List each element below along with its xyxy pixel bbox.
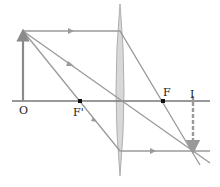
label-image: I (190, 88, 194, 101)
ray-parallel (23, 31, 200, 165)
label-origin: O (19, 104, 28, 117)
label-object-focal: F' (73, 106, 84, 119)
lens-ray-diagram: O F' F I (0, 0, 220, 187)
ray-arrow-icon (91, 117, 97, 122)
image-focal-point (161, 99, 165, 103)
object-focal-point (78, 99, 82, 103)
ray-arrow-icon (68, 28, 74, 34)
label-image-focal: F (163, 86, 171, 99)
ray-arrow-icon (150, 148, 156, 154)
